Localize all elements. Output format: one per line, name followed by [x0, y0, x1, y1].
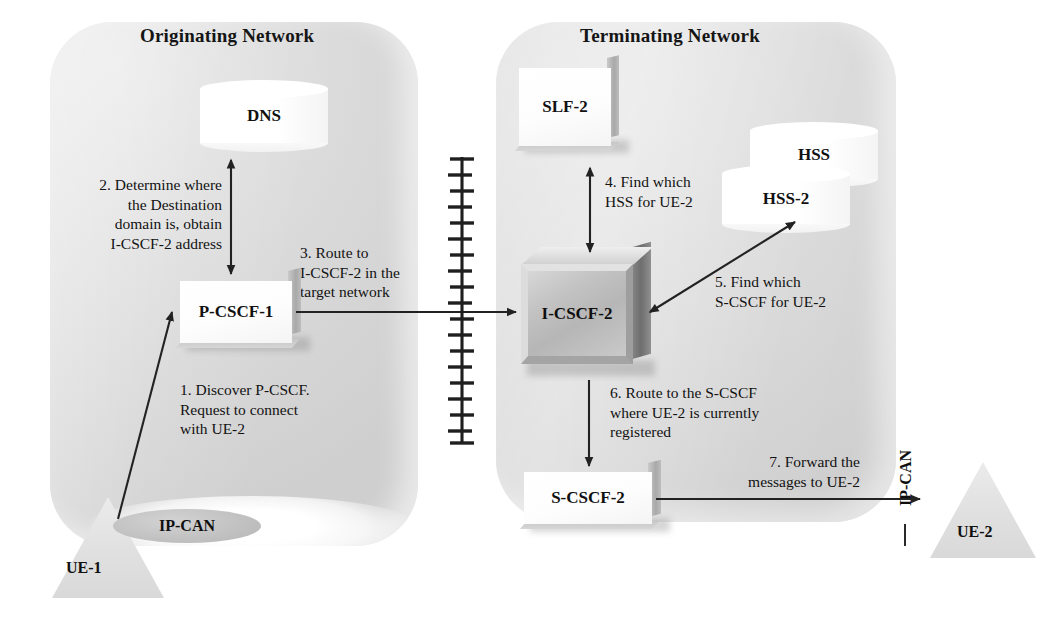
s-cscf-2-node: S-CSCF-2 [524, 472, 652, 524]
step-5-annotation: 5. Find which S-CSCF for UE-2 [715, 272, 865, 311]
step-3-annotation: 3. Route to I-CSCF-2 in the target netwo… [300, 243, 430, 302]
slf-2-node: SLF-2 [519, 68, 611, 146]
step-1-annotation: 1. Discover P-CSCF. Request to connect w… [180, 380, 350, 439]
p-cscf-1-node: P-CSCF-1 [180, 281, 292, 343]
dns-label: DNS [200, 80, 328, 152]
dns-node: DNS [200, 80, 328, 152]
ip-can-right-tick [904, 524, 906, 546]
hss-2-label: HSS-2 [722, 165, 850, 233]
ue-2-node: UE-2 [930, 462, 1036, 558]
ue-1-label: UE-1 [66, 559, 102, 577]
ip-can-right-label: IP-CAN [897, 430, 915, 526]
ip-can-left-node: IP-CAN [113, 509, 261, 543]
i-cscf-2-node: I-CSCF-2 [521, 264, 643, 374]
network-boundary-ladder-icon [440, 155, 484, 445]
originating-network-title: Originating Network [140, 25, 314, 47]
step-2-annotation: 2. Determine where the Destination domai… [80, 175, 222, 253]
ip-can-left-label: IP-CAN [113, 509, 261, 543]
ue-2-label: UE-2 [957, 523, 993, 541]
slf-2-label: SLF-2 [519, 68, 611, 146]
step-6-annotation: 6. Route to the S-CSCF where UE-2 is cur… [610, 383, 810, 442]
triangle-shape [930, 462, 1036, 558]
p-cscf-1-label: P-CSCF-1 [180, 281, 292, 343]
hss-2-node: HSS-2 [722, 165, 850, 233]
step-4-annotation: 4. Find which HSS for UE-2 [605, 172, 730, 211]
step-7-annotation: 7. Forward the messages to UE-2 [660, 452, 860, 491]
i-cscf-2-label: I-CSCF-2 [521, 264, 633, 364]
ip-can-right-node: IP-CAN [895, 432, 917, 528]
diagram-canvas: Originating Network Terminating Network … [0, 0, 1043, 622]
box-top-face [521, 247, 653, 265]
s-cscf-2-label: S-CSCF-2 [524, 472, 652, 524]
terminating-network-title: Terminating Network [580, 25, 760, 47]
